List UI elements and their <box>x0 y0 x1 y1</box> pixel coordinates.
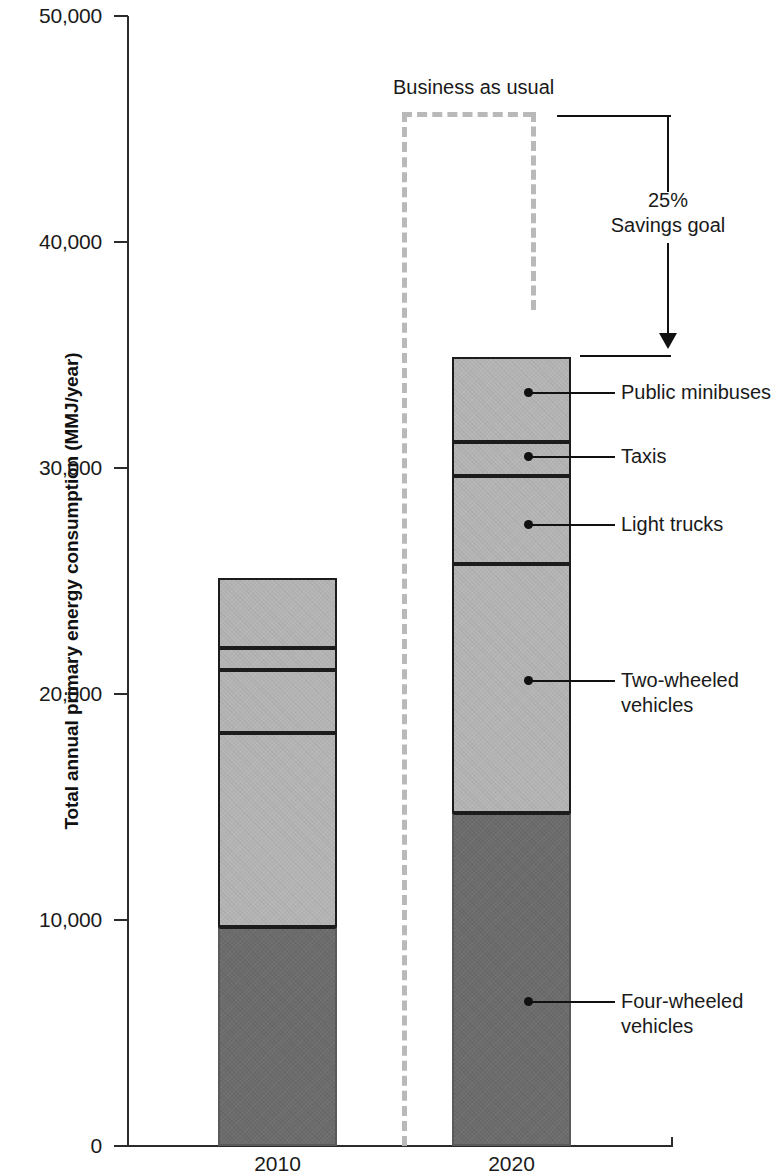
bar-2020-segment-two-wheeled-vehicles <box>452 564 571 813</box>
callout-line-four-wheeled-vehicles <box>528 1001 615 1003</box>
bar-2020-segment-taxis <box>452 442 571 476</box>
callout-line-light-trucks <box>528 524 615 526</box>
y-tick-label-50000: 50,000 <box>0 5 767 26</box>
savings-goal-label: Savings goal <box>588 213 748 238</box>
savings-goal-bottom-line <box>580 355 671 357</box>
savings-goal-percent: 25% <box>588 188 748 213</box>
y-axis-title: Total annual primary energy consumption … <box>61 311 83 871</box>
x-axis-tick-end <box>671 1137 673 1147</box>
x-category-label-2010: 2010 <box>218 1152 337 1173</box>
bar-2010-segment-two-wheeled-vehicles <box>218 733 337 927</box>
bar-2010-segment-four-wheeled-vehicles <box>218 927 337 1146</box>
bar-2010 <box>218 578 337 1146</box>
y-axis-line <box>127 16 129 1147</box>
callout-line-taxis <box>528 456 615 458</box>
bar-2010-segment-taxis <box>218 648 337 670</box>
savings-goal-lower-stem <box>667 243 669 335</box>
callout-label-four-wheeled-vehicles: Four-wheeled vehicles <box>621 989 743 1039</box>
savings-goal-upper-stem <box>667 115 669 192</box>
business-as-usual-top-dash <box>402 112 533 117</box>
savings-goal-top-line <box>557 115 671 117</box>
savings-goal-arrow-icon <box>659 333 677 349</box>
bar-2010-segment-light-trucks <box>218 670 337 733</box>
bar-2020-segment-four-wheeled-vehicles <box>452 813 571 1146</box>
callout-label-light-trucks: Light trucks <box>621 512 723 537</box>
business-as-usual-right-dash <box>531 112 536 310</box>
bar-2010-segment-public-minibuses <box>218 578 337 648</box>
x-axis-line <box>118 1145 673 1147</box>
business-as-usual-left-dash <box>402 112 407 1146</box>
x-category-label-2020: 2020 <box>452 1152 571 1173</box>
callout-line-public-minibuses <box>528 392 615 394</box>
callout-label-taxis: Taxis <box>621 444 667 469</box>
callout-label-two-wheeled-vehicles: Two-wheeled vehicles <box>621 668 739 718</box>
bar-2020-segment-light-trucks <box>452 476 571 564</box>
stacked-bar-chart: Total annual primary energy consumption … <box>0 0 777 1173</box>
callout-line-two-wheeled-vehicles <box>528 680 615 682</box>
business-as-usual-label: Business as usual <box>393 76 554 99</box>
bar-2020-segment-public-minibuses <box>452 357 571 442</box>
bar-2020 <box>452 357 571 1146</box>
callout-label-public-minibuses: Public minibuses <box>621 380 771 405</box>
y-tick-label-10000: 10,000 <box>0 909 767 930</box>
